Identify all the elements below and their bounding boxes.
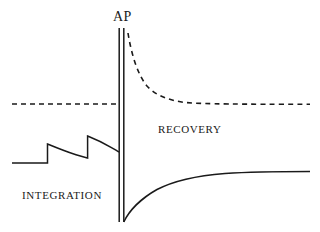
- integration-staircase-curve: [12, 136, 119, 163]
- action-potential-spike: [119, 28, 124, 222]
- recovery-threshold-decay-curve: [128, 33, 310, 104]
- recovery-label: RECOVERY: [158, 124, 221, 135]
- ap-label: AP: [113, 10, 132, 24]
- integration-label: INTEGRATION: [22, 190, 102, 201]
- neuron-integration-diagram: AP INTEGRATION RECOVERY: [0, 0, 320, 232]
- membrane-recovery-curve: [124, 171, 310, 222]
